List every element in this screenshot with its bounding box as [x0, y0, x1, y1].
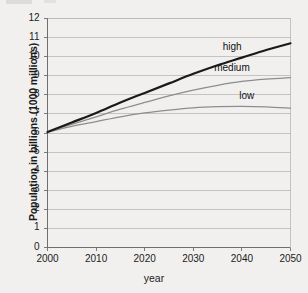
series-label-medium: medium [214, 62, 250, 73]
series-label-low: low [239, 90, 254, 101]
series-label-high: high [223, 41, 242, 52]
population-projection-chart: Population in billions (1000 millions) y… [0, 0, 308, 293]
plot-area [0, 0, 308, 293]
